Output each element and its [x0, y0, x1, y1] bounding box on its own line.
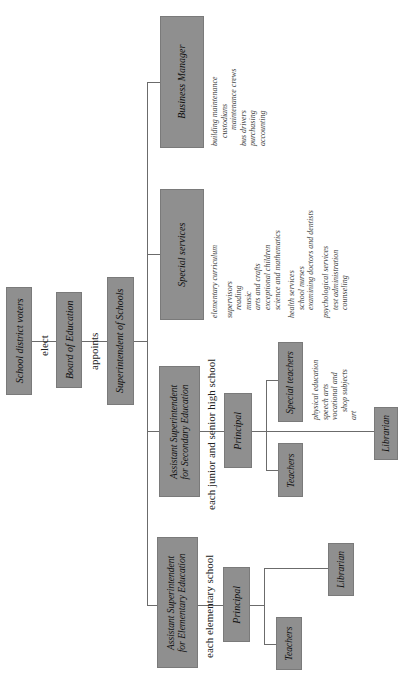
asst-supt-elementary-label: Assistant Superintendent for Elementary …	[167, 553, 189, 652]
elementary-principal-box: Principal	[223, 567, 250, 642]
subject-item: art	[349, 360, 359, 420]
elementary-librarian-box: Librarian	[328, 543, 354, 596]
duty-item: elementary curriculum	[210, 210, 220, 318]
asst-supt-secondary-label: Assistant Superintendent for Secondary E…	[169, 384, 191, 479]
duty-item: building maintenance	[210, 69, 220, 146]
secondary-teachers-label: Teachers	[285, 453, 296, 487]
secondary-special-teachers-box: Special teachers	[278, 342, 303, 422]
secondary-principal-label: Principal	[232, 412, 244, 450]
duty-item: custodians	[220, 69, 230, 146]
subject-item: physical education	[311, 360, 321, 420]
duty-item: maintenance crews	[229, 69, 239, 146]
duty-item: accounting	[258, 69, 268, 146]
duty-item: reading	[234, 210, 244, 318]
board-of-education-box: Board of Education	[56, 292, 82, 388]
elementary-teachers-label: Teachers	[284, 627, 295, 661]
elementary-principal-label: Principal	[231, 586, 243, 624]
elementary-librarian-connector	[264, 568, 328, 569]
asst-secondary-line1: Assistant Superintendent	[169, 384, 179, 478]
business-manager-label: Business Manager	[176, 45, 188, 119]
bus-business-manager-connector	[147, 82, 160, 83]
subject-item: speech arts	[321, 360, 331, 420]
subject-item: shop subjects	[340, 360, 350, 420]
voters-box: School district voters	[6, 287, 32, 395]
asst-supt-elementary-box: Assistant Superintendent for Elementary …	[157, 537, 198, 668]
elementary-librarian-label: Librarian	[336, 551, 347, 588]
voters-label: School district voters	[13, 299, 25, 384]
duty-item: science and mathematics	[273, 210, 283, 318]
asst-elementary-line1: Assistant Superintendent	[167, 555, 177, 649]
secondary-special-teachers-label: Special teachers	[285, 351, 296, 414]
duty-item: exceptional children	[263, 210, 273, 318]
main-vertical-bus	[147, 82, 148, 605]
duty-item: test administration	[331, 210, 341, 318]
special-services-label: Special services	[176, 222, 188, 286]
secondary-principal-box: Principal	[224, 393, 252, 468]
bus-secondary-connector	[147, 431, 159, 432]
secondary-teachers-box: Teachers	[278, 443, 303, 497]
asst-secondary-line2: for Secondary Education	[180, 384, 190, 479]
asst-supt-secondary-box: Assistant Superintendent for Secondary E…	[159, 366, 200, 497]
duty-item: purchasing	[248, 69, 258, 146]
special-teacher-subjects: physical education speech arts vocationa…	[311, 360, 359, 420]
elect-label: elect	[38, 335, 50, 356]
superintendent-label: Superintendent of Schools	[115, 289, 127, 393]
elementary-teachers-box: Teachers	[276, 617, 302, 670]
duty-item: counseling	[340, 210, 350, 318]
asst-elementary-line2: for Elementary Education	[178, 553, 188, 652]
duty-item: arts and crafts	[253, 210, 263, 318]
duty-item: bus drivers	[239, 69, 249, 146]
subject-item: vocational and	[330, 360, 340, 420]
secondary-special-teachers-connector	[266, 380, 278, 381]
superintendent-box: Superintendent of Schools	[107, 277, 134, 405]
duty-item: music	[244, 210, 254, 318]
business-manager-duties: building maintenance custodians maintena…	[210, 69, 268, 146]
secondary-staff-vertical	[266, 380, 267, 470]
secondary-librarian-label: Librarian	[381, 415, 392, 452]
special-services-box: Special services	[160, 189, 204, 320]
duty-item: examining doctors and dentists	[306, 210, 316, 318]
secondary-librarian-box: Librarian	[374, 407, 398, 460]
appoints-label: appoints	[88, 333, 100, 370]
board-label: Board of Education	[63, 301, 75, 380]
elementary-scope-label: each elementary school	[203, 555, 215, 658]
secondary-principal-out-connector	[252, 431, 374, 432]
duty-item: health services	[287, 210, 297, 318]
elementary-teachers-connector	[264, 644, 276, 645]
duty-item: supervisors	[225, 210, 235, 318]
business-manager-box: Business Manager	[160, 16, 204, 148]
duty-item: school nurses	[297, 210, 307, 318]
elementary-principal-out-connector	[250, 605, 264, 606]
secondary-teachers-connector	[266, 470, 278, 471]
elementary-staff-vertical	[264, 568, 265, 644]
bus-special-services-connector	[147, 254, 160, 255]
duty-item: psychological services	[321, 210, 331, 318]
superintendent-trunk-connector	[134, 341, 147, 342]
secondary-scope-label: each junior and senior high school	[205, 359, 217, 510]
special-services-duties: elementary curriculum supervisors readin…	[210, 210, 350, 318]
bus-elementary-connector	[147, 605, 157, 606]
